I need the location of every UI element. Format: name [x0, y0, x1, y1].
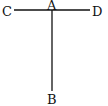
point-label-d: D [92, 4, 102, 19]
point-label-c: C [2, 4, 12, 19]
point-label-a: A [46, 0, 57, 13]
t-shaped-diagram: C A D B [0, 0, 108, 106]
point-label-b: B [47, 92, 57, 106]
